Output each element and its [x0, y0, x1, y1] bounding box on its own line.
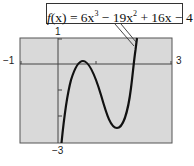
function-equation-part: − 19x — [98, 10, 133, 25]
y-max-label: 1 — [55, 26, 61, 37]
function-label-box: f(x) = 6x3 − 19x2 + 16x − 4 — [46, 3, 183, 24]
plot-area — [20, 38, 172, 143]
y-min-label: −3 — [52, 145, 63, 156]
chart-figure: f(x) = 6x3 − 19x2 + 16x − 4 −1 3 1 −3 — [0, 0, 194, 166]
function-equation-part: + 16x − 4 — [137, 10, 193, 25]
x-min-label: −1 — [3, 55, 14, 66]
function-equation-part: (x) = 6x — [51, 10, 95, 25]
x-max-label: 3 — [176, 55, 182, 66]
